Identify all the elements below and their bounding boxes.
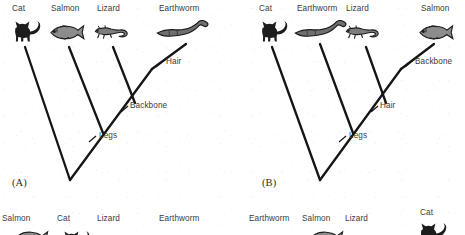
tree-lines-panel-b <box>0 0 465 235</box>
taxon-label-lizard-c: Lizard <box>97 214 120 223</box>
fish-icon <box>307 230 345 235</box>
taxon-label-earthworm-c: Earthworm <box>159 214 199 223</box>
taxon-label-lizard-d: Lizard <box>345 214 368 223</box>
trait-label-hair-b: Hair <box>380 101 395 110</box>
panel-caption-b: (B) <box>262 177 276 188</box>
trait-label-backbone-b: Backbone <box>415 57 452 66</box>
taxon-label-salmon-d: Salmon <box>302 214 330 223</box>
fish-icon <box>12 230 50 235</box>
cladogram-figure: Cat Salmon Lizard Earthworm <box>0 0 465 235</box>
taxon-label-cat-c: Cat <box>57 214 70 223</box>
taxon-label-earthworm-d: Earthworm <box>249 214 289 223</box>
taxon-label-salmon-c: Salmon <box>2 214 30 223</box>
taxon-label-cat-d: Cat <box>420 208 433 217</box>
cat-icon <box>412 220 456 235</box>
trait-label-legs-b: Legs <box>349 131 367 140</box>
cat-icon <box>60 228 94 235</box>
